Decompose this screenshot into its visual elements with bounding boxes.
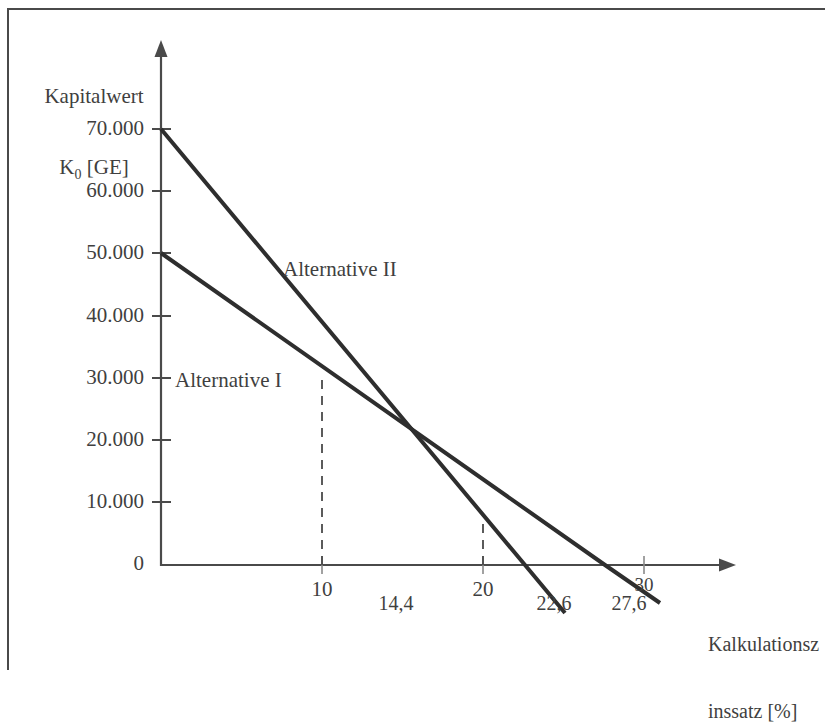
annotation-critical-rate: 14,4 bbox=[361, 592, 431, 614]
series-label-alternative-i: Alternative I bbox=[175, 369, 282, 393]
x-tick-label-10: 10 bbox=[292, 578, 352, 602]
x-axis bbox=[161, 559, 736, 572]
annotation-irr-alternative-i: 27,6 bbox=[594, 592, 664, 614]
y-axis-title-unit: [GE] bbox=[81, 155, 128, 179]
y-tick-label-30000: 30.000 bbox=[48, 366, 144, 390]
x-axis-title: Kalkulationsz inssatz [%] bbox=[708, 588, 833, 726]
series-line-alternative-i bbox=[161, 253, 660, 603]
y-axis-title-line1: Kapitalwert bbox=[30, 85, 158, 109]
x-axis-title-line2: inssatz [%] bbox=[708, 700, 833, 722]
y-tick-label-0: 0 bbox=[48, 552, 144, 576]
y-axis-title-symbol: K bbox=[59, 155, 74, 179]
x-axis-title-line1: Kalkulationsz bbox=[708, 633, 833, 655]
annotation-irr-alternative-ii: 22,6 bbox=[519, 592, 589, 614]
x-tick-label-20: 20 bbox=[453, 578, 513, 602]
y-tick-label-40000: 40.000 bbox=[48, 304, 144, 328]
y-tick-label-70000: 70.000 bbox=[48, 117, 144, 141]
y-tick-label-50000: 50.000 bbox=[48, 241, 144, 265]
y-tick-label-60000: 60.000 bbox=[48, 179, 144, 203]
series-label-alternative-ii: Alternative II bbox=[283, 258, 397, 282]
y-tick-label-10000: 10.000 bbox=[48, 490, 144, 514]
dashed-guide-lines bbox=[322, 379, 483, 565]
y-tick-label-20000: 20.000 bbox=[48, 428, 144, 452]
